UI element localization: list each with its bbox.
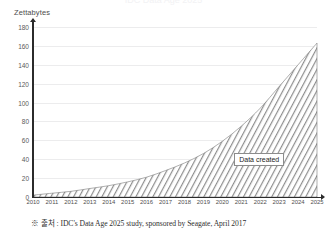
cropped-title-text: IDC Data Age 2025 <box>0 0 327 5</box>
y-axis-tick-80: 80 <box>22 118 29 125</box>
y-axis-spine <box>32 21 34 197</box>
x-axis-tick-2011: 2011 <box>46 199 59 205</box>
x-axis-tick-2016: 2016 <box>140 199 153 205</box>
y-axis-tick-100: 100 <box>18 99 29 106</box>
y-axis-tick-120: 120 <box>18 80 29 87</box>
x-axis-tick-2019: 2019 <box>197 199 210 205</box>
chart-container: IDC Data Age 2025 Zettabytes 02040608010… <box>0 0 327 239</box>
y-axis-tick-160: 160 <box>18 42 29 49</box>
y-axis-tick-20: 20 <box>22 175 29 182</box>
x-axis-tick-2024: 2024 <box>292 199 305 205</box>
x-axis-tick-2010: 2010 <box>26 199 39 205</box>
x-axis-tick-2022: 2022 <box>254 199 267 205</box>
x-axis-tick-2018: 2018 <box>178 199 191 205</box>
y-axis-tick-180: 180 <box>18 24 29 31</box>
x-axis-tick-2023: 2023 <box>273 199 286 205</box>
x-axis-tick-2015: 2015 <box>121 199 134 205</box>
y-axis-title: Zettabytes <box>14 8 50 17</box>
y-axis-tick-60: 60 <box>22 137 29 144</box>
source-footnote: ※ 출처 : IDC's Data Age 2025 study, sponso… <box>31 217 246 228</box>
area-series-data-created <box>33 27 317 197</box>
data-created-callout: Data created <box>234 153 284 166</box>
x-axis-spine <box>32 197 321 198</box>
x-axis-tick-2013: 2013 <box>83 199 96 205</box>
x-axis-tick-2017: 2017 <box>159 199 172 205</box>
plot-area: 020406080100120140160180 Data created <box>33 27 317 197</box>
x-axis-tick-labels: 2010201120122013201420152016201720182019… <box>33 199 317 211</box>
cropped-title-strip: IDC Data Age 2025 <box>0 0 327 6</box>
x-axis-tick-2020: 2020 <box>216 199 229 205</box>
y-axis-tick-40: 40 <box>22 156 29 163</box>
x-axis-tick-2025: 2025 <box>310 199 323 205</box>
x-axis-tick-2012: 2012 <box>64 199 77 205</box>
x-axis-tick-2014: 2014 <box>102 199 115 205</box>
y-axis-tick-140: 140 <box>18 61 29 68</box>
data-created-callout-label: Data created <box>239 156 279 163</box>
x-axis-tick-2021: 2021 <box>235 199 248 205</box>
